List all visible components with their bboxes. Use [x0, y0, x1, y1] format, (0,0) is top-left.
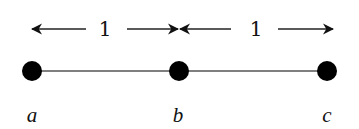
- node-label-a: a: [27, 103, 38, 127]
- node-a: [22, 61, 42, 81]
- node-b: [169, 61, 189, 81]
- distance-indicator-bc: 1: [180, 17, 333, 41]
- distance-label-bc: 1: [250, 17, 263, 41]
- node-label-c: c: [322, 103, 332, 127]
- distance-label-ab: 1: [99, 17, 112, 41]
- node-c: [317, 61, 337, 81]
- path-graph-diagram: 1 1 a b c: [0, 0, 359, 129]
- distance-indicator-ab: 1: [32, 17, 178, 41]
- diagram-svg: 1 1 a b c: [0, 0, 359, 129]
- node-label-b: b: [173, 103, 184, 127]
